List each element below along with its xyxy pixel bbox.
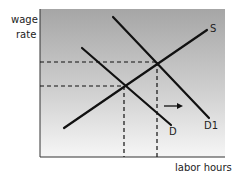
x-axis-label: labor hours [175, 162, 232, 174]
supply-label: S [210, 23, 216, 35]
demand-shifted-label: D1 [204, 120, 218, 132]
y-axis-label-line2: rate [16, 29, 36, 41]
chart-canvas [0, 0, 239, 175]
demand-label: D [169, 126, 177, 138]
y-axis-label-line1: wage [11, 14, 38, 26]
plot-area [40, 9, 225, 157]
